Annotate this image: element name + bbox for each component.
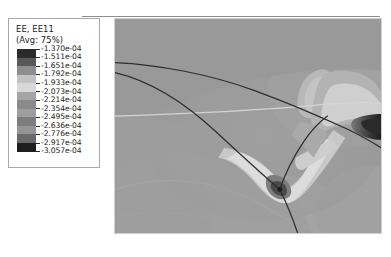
legend-swatch <box>17 143 36 152</box>
legend-tick-mark <box>36 74 40 75</box>
legend-tick-mark <box>36 83 40 84</box>
legend-title-block: EE, EE11 (Avg: 75%) <box>16 24 100 46</box>
legend-tick-mark <box>36 134 40 135</box>
legend-swatch <box>17 134 36 143</box>
legend-swatch <box>17 75 36 84</box>
legend-swatch <box>17 109 36 118</box>
legend-swatch <box>17 66 36 75</box>
legend-tick-mark <box>36 49 40 50</box>
legend-tick-mark <box>36 151 40 152</box>
screenshot-viewport: EE, EE11 (Avg: 75%) -1.370e-04-1.511e-04… <box>0 0 391 257</box>
top-divider-rule <box>82 16 380 17</box>
legend-value-label: -3.057e-04 <box>41 147 82 156</box>
legend-swatch <box>17 117 36 126</box>
legend-swatch <box>17 92 36 101</box>
legend-tick-mark <box>36 117 40 118</box>
legend-row: -3.057e-04 <box>17 152 97 161</box>
legend-tick-mark <box>36 143 40 144</box>
legend-swatch <box>17 58 36 67</box>
legend-variable-label: EE, EE11 <box>16 24 100 35</box>
legend-swatch <box>17 83 36 92</box>
contour-field-group <box>115 19 381 233</box>
legend-swatch <box>17 152 36 161</box>
legend-tick-mark <box>36 91 40 92</box>
legend-swatch <box>17 126 36 135</box>
contour-plot-frame[interactable] <box>114 18 382 234</box>
legend-swatch <box>17 100 36 109</box>
triple-junction-marker <box>277 187 282 192</box>
contour-plot-canvas <box>115 19 381 233</box>
legend-tick-mark <box>36 108 40 109</box>
legend-tick-mark <box>36 57 40 58</box>
legend-color-scale: -1.370e-04-1.511e-04-1.651e-04-1.792e-04… <box>17 49 97 163</box>
legend-tick-mark <box>36 126 40 127</box>
legend-tick-mark <box>36 66 40 67</box>
legend-tick-mark <box>36 100 40 101</box>
legend-swatch <box>17 49 36 58</box>
contour-legend-panel: EE, EE11 (Avg: 75%) -1.370e-04-1.511e-04… <box>8 18 100 168</box>
